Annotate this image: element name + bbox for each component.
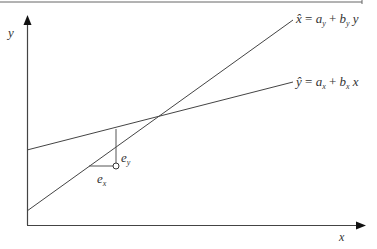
diagram-svg xyxy=(0,0,377,249)
equals-sign: = xyxy=(305,74,312,89)
residual-e-y-label: ey xyxy=(121,151,130,164)
residual-e-x-base: e xyxy=(97,171,103,186)
plus-sign: + xyxy=(329,74,336,89)
y-hat-symbol: ŷ xyxy=(296,74,302,89)
slope-b-subscript: y xyxy=(346,19,350,28)
x-axis-label: x xyxy=(339,231,344,243)
slope-b-subscript: x xyxy=(346,82,350,91)
variable: y xyxy=(353,11,359,26)
residual-e-y-base: e xyxy=(121,150,127,165)
intercept-a-subscript: y xyxy=(322,19,326,28)
plus-sign: + xyxy=(329,11,336,26)
residual-e-y-subscript: y xyxy=(127,158,131,167)
intercept-a-subscript: x xyxy=(322,82,326,91)
residual-e-x-label: ex xyxy=(97,172,106,185)
y-axis-arrow-icon xyxy=(24,15,32,25)
x-hat-symbol: x̂ xyxy=(296,11,302,26)
residual-e-x-subscript: x xyxy=(103,179,107,188)
x-hat-equation-label: x̂ = ay + by y xyxy=(296,12,359,25)
y-hat-regression-line xyxy=(27,82,293,150)
data-point-circle xyxy=(113,163,119,169)
y-axis-label: y xyxy=(8,26,14,39)
x-axis-arrow-icon xyxy=(356,222,366,230)
diagram-canvas: y x x̂ = ay + by y ŷ = ax + bx x ey ex xyxy=(0,0,377,249)
y-hat-equation-label: ŷ = ax + bx x xyxy=(296,75,359,88)
equals-sign: = xyxy=(305,11,312,26)
variable: x xyxy=(353,74,359,89)
